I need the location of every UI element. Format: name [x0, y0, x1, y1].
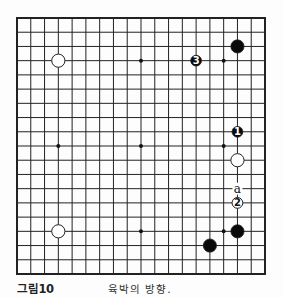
black-stone — [231, 40, 244, 53]
star-point — [139, 229, 143, 233]
star-point — [139, 59, 143, 63]
white-stone — [52, 54, 65, 67]
figure-number: 그림10 — [17, 280, 54, 296]
move-number-1: 1 — [234, 126, 241, 137]
star-point — [222, 144, 226, 148]
move-number-3: 3 — [193, 55, 200, 66]
black-stone — [203, 239, 216, 252]
star-point — [139, 144, 143, 148]
figure-caption: 육박의 방향. — [108, 281, 172, 296]
star-point — [56, 144, 60, 148]
star-point — [222, 59, 226, 63]
white-stone — [52, 225, 65, 238]
black-stone — [231, 225, 244, 238]
white-stone — [231, 154, 244, 167]
star-point — [222, 229, 226, 233]
move-number-2: 2 — [234, 197, 241, 208]
go-board-diagram: a312 — [0, 0, 283, 278]
marker-label-a: a — [234, 182, 241, 196]
